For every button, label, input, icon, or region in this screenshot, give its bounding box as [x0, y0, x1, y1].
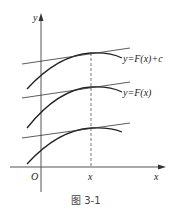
- tangent-bottom: [22, 123, 130, 138]
- y-axis-label: y: [32, 12, 38, 23]
- tangent-middle: [22, 82, 130, 98]
- origin-label: O: [31, 171, 38, 182]
- curve-label-F-plus-c: y=F(x)+c: [122, 53, 163, 65]
- x-axis-arrow-icon: [158, 165, 166, 170]
- curve-label-F: y=F(x): [122, 87, 152, 99]
- x-point-label: x: [87, 171, 93, 182]
- figure-caption: 图 3-1: [71, 195, 101, 206]
- tangent-top: [22, 48, 130, 64]
- y-axis-arrow-icon: [39, 13, 44, 21]
- x-axis-label: x: [153, 171, 159, 182]
- antiderivative-family-diagram: y y=F(x)+c y=F(x) O x x 图 3-1: [0, 0, 178, 220]
